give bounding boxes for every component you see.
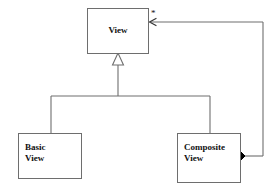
generalization-hollow-triangle-icon	[113, 53, 124, 65]
class-box-view[interactable]: View	[87, 8, 149, 54]
class-box-composite-view[interactable]: Composite View	[177, 133, 241, 183]
class-name-view: View	[88, 25, 148, 36]
uml-class-diagram: View Basic View Composite View *	[0, 0, 278, 192]
multiplicity-label-star: *	[151, 9, 156, 18]
generalization-connector-group	[51, 53, 210, 133]
class-name-composite-view: Composite View	[184, 142, 225, 163]
class-box-basic-view[interactable]: Basic View	[18, 133, 82, 179]
class-name-basic-view: Basic View	[25, 142, 46, 163]
